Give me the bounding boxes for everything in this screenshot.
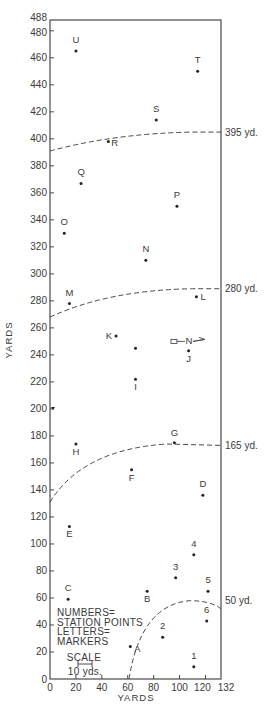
marker-label: G	[171, 427, 178, 438]
marker-label: N	[142, 243, 149, 254]
y-tick-label: 400	[30, 133, 47, 144]
marker-label: I	[134, 381, 137, 392]
marker-point	[68, 302, 71, 305]
x-tick-label: 20	[70, 682, 82, 693]
y-tick-label: 488	[30, 12, 47, 23]
marker-label: M	[65, 287, 73, 298]
station-point	[161, 636, 164, 639]
marker-label: F	[129, 472, 135, 483]
station-point	[205, 619, 208, 622]
y-tick-label: 380	[30, 160, 47, 171]
marker-point	[173, 441, 176, 444]
x-axis-ticks: 020406080100120132	[47, 675, 235, 693]
marker-point	[80, 182, 83, 185]
scale-title: SCALE	[67, 652, 101, 663]
marker-point	[196, 70, 199, 73]
station-label: 2	[160, 620, 165, 631]
marker-label: J	[186, 353, 191, 364]
y-tick-label: 200	[30, 403, 47, 414]
x-tick-label: 0	[47, 682, 53, 693]
y-axis-label: YARDS	[3, 321, 14, 358]
range-arcs: 395 yd.280 yd.165 yd.50 yd.	[50, 127, 258, 679]
y-tick-label: 20	[36, 646, 48, 657]
y-tick-label: 260	[30, 322, 47, 333]
marker-label: R	[111, 137, 118, 148]
marker-label: K	[106, 330, 113, 341]
range-arc-label: 50 yd.	[225, 595, 252, 606]
marker-label: S	[153, 103, 159, 114]
station-point	[192, 665, 195, 668]
marker-point	[144, 259, 147, 262]
marker-label: L	[200, 291, 205, 302]
x-axis-label: YARDS	[117, 692, 154, 703]
marker-label: O	[61, 216, 68, 227]
station-label: 4	[191, 538, 196, 549]
marker-point	[129, 645, 132, 648]
station-point	[174, 576, 177, 579]
marker-label: T	[195, 54, 201, 65]
x-tick-label: 120	[194, 682, 211, 693]
y-tick-label: 60	[36, 592, 48, 603]
y-tick-label: 220	[30, 376, 47, 387]
station-point	[192, 553, 195, 556]
north-arrow-head	[193, 337, 205, 341]
y-tick-label: 180	[30, 430, 47, 441]
station-label: 6	[204, 604, 209, 615]
y-tick-label: 420	[30, 106, 47, 117]
range-arc-label: 395 yd.	[225, 127, 258, 138]
marker-label: D	[199, 478, 206, 489]
x-tick-label: 40	[96, 682, 108, 693]
north-arrow-label: N	[186, 335, 193, 346]
y-tick-label: 140	[30, 484, 47, 495]
range-arc	[50, 289, 221, 317]
x-tick-label: 100	[171, 682, 188, 693]
y-tick-label: 80	[36, 565, 48, 576]
y-tick-label: 40	[36, 619, 48, 630]
data-points: UTSRQPONLMKJIHGFDECBA123456	[51, 34, 211, 668]
range-arc	[50, 132, 221, 151]
y-tick-label: 160	[30, 457, 47, 468]
annotations: NNUMBERS=STATION POINTSLETTERS=MARKERSSC…	[57, 335, 205, 677]
marker-label: Q	[77, 166, 84, 177]
y-tick-label: 280	[30, 295, 47, 306]
y-tick-label: 480	[30, 27, 47, 38]
marker-point	[134, 347, 137, 350]
station-point	[207, 590, 210, 593]
range-arc-label: 280 yd.	[225, 283, 258, 294]
marker-label: P	[174, 189, 180, 200]
range-map-chart: 0204060801001201401601802002202402602803…	[0, 0, 270, 719]
marker-point	[67, 598, 70, 601]
marker-point	[155, 118, 158, 121]
range-arc-label: 165 yd.	[225, 440, 258, 451]
y-tick-label: 460	[30, 52, 47, 63]
marker-point	[107, 140, 110, 143]
scale-value: 10 yds.	[68, 666, 102, 677]
marker-point	[175, 205, 178, 208]
marker-label: A	[134, 643, 141, 654]
marker-label: H	[72, 446, 79, 457]
station-label: 3	[173, 561, 178, 572]
y-tick-label: 300	[30, 268, 47, 279]
y-tick-label: 320	[30, 241, 47, 252]
marker-point	[74, 50, 77, 53]
north-arrow-tail	[171, 339, 177, 343]
y-tick-label: 360	[30, 187, 47, 198]
legend-text: MARKERS	[57, 636, 109, 647]
station-label: 1	[191, 650, 196, 661]
marker-point	[63, 232, 66, 235]
marker-label: E	[66, 528, 72, 539]
marker-label: C	[65, 582, 72, 593]
marker-point	[195, 295, 198, 298]
marker-point	[201, 494, 204, 497]
y-tick-label: 120	[30, 511, 47, 522]
y-tick-label: 240	[30, 349, 47, 360]
marker-label: U	[72, 34, 79, 45]
x-tick-label: 132	[218, 682, 235, 693]
marker-point	[115, 334, 118, 337]
station-label: 5	[205, 574, 210, 585]
y-tick-label: 340	[30, 214, 47, 225]
y-tick-label: 100	[30, 538, 47, 549]
marker-label: B	[144, 593, 150, 604]
y-tick-label: 440	[30, 79, 47, 90]
